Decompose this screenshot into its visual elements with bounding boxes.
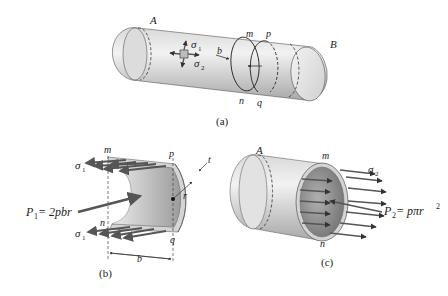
caption-c: (c) bbox=[321, 256, 334, 269]
panel-a-cylinder bbox=[112, 28, 327, 103]
label-b-dim: b bbox=[137, 253, 142, 264]
svg-text:2: 2 bbox=[201, 64, 205, 72]
svg-text:1: 1 bbox=[198, 45, 202, 53]
svg-text:= pπr: = pπr bbox=[396, 204, 424, 218]
svg-text:= 2pbr: = 2pbr bbox=[38, 205, 72, 219]
label-m-b: m bbox=[104, 144, 111, 155]
panel-b-half-cylinder bbox=[78, 156, 207, 262]
svg-text:σ: σ bbox=[75, 227, 81, 239]
label-sigma2-c: σ 2 bbox=[368, 163, 379, 178]
svg-text:σ: σ bbox=[75, 159, 81, 171]
label-p-b: p bbox=[168, 148, 174, 159]
label-r: r bbox=[183, 190, 187, 201]
label-sigma1-bottom: σ 1 bbox=[75, 227, 86, 242]
svg-text:σ: σ bbox=[191, 38, 197, 50]
label-n: n bbox=[239, 95, 244, 106]
svg-text:P: P bbox=[25, 205, 34, 219]
label-n-b: n bbox=[100, 217, 105, 228]
svg-text:σ: σ bbox=[194, 57, 200, 69]
label-b: b bbox=[217, 45, 222, 56]
label-P2-equation: P 2 = pπr 2 bbox=[383, 202, 440, 220]
label-q: q bbox=[257, 97, 262, 108]
label-q-b: q bbox=[170, 234, 175, 245]
svg-text:2: 2 bbox=[436, 202, 440, 211]
stress-element bbox=[180, 50, 188, 58]
label-sigma1-top: σ 1 bbox=[75, 159, 86, 174]
svg-text:1: 1 bbox=[82, 166, 86, 174]
svg-text:2: 2 bbox=[375, 170, 379, 178]
label-P1-equation: P 1 = 2pbr bbox=[25, 205, 72, 221]
svg-text:P: P bbox=[383, 204, 392, 218]
label-n-c: n bbox=[320, 238, 325, 249]
label-A-c: A bbox=[255, 144, 263, 156]
label-B: B bbox=[330, 38, 337, 50]
figure-canvas: A B m p n q b σ 1 σ 2 (a) bbox=[0, 0, 448, 296]
label-A: A bbox=[149, 14, 157, 26]
label-m-c: m bbox=[322, 150, 329, 161]
caption-b: (b) bbox=[99, 267, 112, 280]
svg-text:1: 1 bbox=[82, 234, 86, 242]
panel-c-cylinder bbox=[230, 154, 386, 241]
label-t: t bbox=[208, 154, 211, 165]
label-p: p bbox=[265, 28, 271, 39]
svg-text:σ: σ bbox=[368, 163, 374, 175]
caption-a: (a) bbox=[216, 115, 229, 128]
label-m: m bbox=[246, 28, 253, 39]
